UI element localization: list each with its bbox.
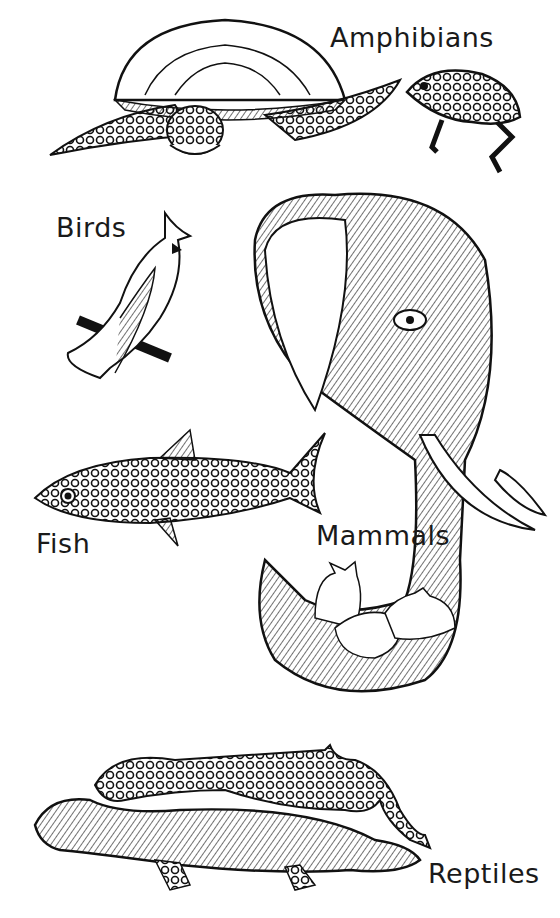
crocodile-illustration (30, 795, 425, 895)
waxwing-bird-illustration (60, 208, 200, 383)
label-fish: Fish (36, 528, 90, 559)
kittens-illustration (305, 558, 465, 668)
label-mammals: Mammals (316, 520, 450, 551)
label-amphibians: Amphibians (330, 22, 494, 53)
label-reptiles: Reptiles (428, 858, 540, 889)
frog-illustration (402, 62, 532, 182)
